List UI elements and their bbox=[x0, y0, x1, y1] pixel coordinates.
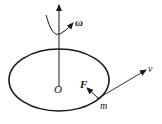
rotation-diagram: ω O F v m bbox=[0, 0, 162, 124]
velocity-label: v bbox=[148, 63, 153, 74]
origin-label: O bbox=[54, 83, 62, 95]
velocity-arrow bbox=[97, 70, 146, 99]
mass-label: m bbox=[100, 100, 107, 111]
force-label: F bbox=[79, 78, 88, 90]
omega-label: ω bbox=[75, 16, 83, 28]
force-arrow bbox=[87, 88, 98, 98]
